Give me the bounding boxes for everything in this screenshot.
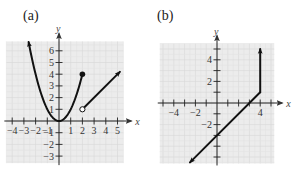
graphs-canvas: xy−4−3−2−112345654321−1−2−3xy−4−2442−2 (0, 0, 298, 174)
open-endpoint (80, 107, 85, 112)
y-tick-label: 4 (207, 54, 212, 65)
y-tick-label: 5 (49, 57, 54, 68)
x-tick-label: 1 (68, 125, 73, 136)
graph-panel-a: xy−4−3−2−112345654321−1−2−3 (4, 23, 140, 165)
closed-endpoint (80, 71, 86, 77)
x-tick-label: 4 (258, 107, 263, 118)
graph-panel-b: xy−4−2442−2 (158, 26, 291, 166)
y-tick-label: 4 (49, 69, 54, 80)
x-tick-label: −2 (190, 107, 201, 118)
x-tick-label: −3 (19, 125, 30, 136)
x-axis-label: x (134, 116, 140, 127)
x-tick-label: 5 (115, 125, 120, 136)
y-axis-label: y (55, 23, 61, 34)
x-tick-label: 3 (92, 125, 97, 136)
y-axis-label: y (213, 26, 219, 37)
y-tick-label: −1 (43, 127, 54, 138)
x-tick-label: −4 (7, 125, 18, 136)
y-tick-label: −2 (201, 119, 212, 130)
y-tick-label: −3 (43, 151, 54, 162)
x-tick-label: 2 (80, 125, 85, 136)
y-tick-label: 3 (49, 80, 54, 91)
y-tick-label: −2 (43, 139, 54, 150)
x-tick-label: 4 (103, 125, 108, 136)
y-tick-label: 2 (207, 76, 212, 87)
x-tick-label: −4 (168, 107, 179, 118)
x-tick-label: −2 (30, 125, 41, 136)
x-axis-label: x (285, 98, 291, 109)
y-tick-label: 2 (49, 92, 54, 103)
y-tick-label: 6 (49, 45, 54, 56)
